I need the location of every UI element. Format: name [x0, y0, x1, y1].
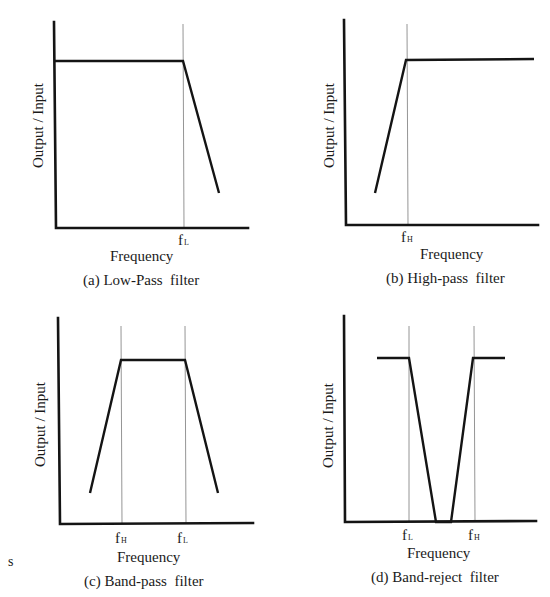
- panel-band-reject: Output / Input fL fH Frequency (d) Band-…: [320, 316, 536, 586]
- panel-caption: (a) Low-Pass filter: [83, 272, 199, 289]
- x-axis-label: Frequency: [117, 549, 181, 565]
- fl-guide-line: [185, 326, 186, 524]
- axes: [58, 318, 253, 524]
- marker-fh: fH: [401, 229, 413, 245]
- response-curve: [55, 61, 219, 193]
- panel-caption: (d) Band-reject filter: [371, 569, 499, 586]
- x-axis-label: Frequency: [420, 246, 484, 262]
- y-axis-label: Output / Input: [321, 82, 337, 168]
- panel-low-pass: Output / Input fL Frequency (a) Low-Pass…: [30, 22, 248, 289]
- response-curve: [375, 59, 534, 193]
- fh-guide-line: [407, 24, 408, 225]
- axes: [344, 316, 536, 522]
- response-curve: [90, 360, 218, 493]
- y-axis-label: Output / Input: [320, 382, 336, 468]
- marker-fl: fL: [177, 530, 188, 546]
- marker-fl: fL: [178, 232, 189, 248]
- x-axis-label: Frequency: [110, 248, 174, 264]
- marker-fl: fL: [402, 527, 413, 543]
- axes: [344, 20, 538, 225]
- fh-guide-line: [474, 326, 475, 522]
- fl-guide-line: [183, 24, 184, 228]
- y-axis-label: Output / Input: [30, 82, 46, 168]
- stray-text: s: [8, 554, 13, 569]
- y-axis-label: Output / Input: [32, 381, 48, 467]
- fh-guide-line: [121, 326, 122, 524]
- panel-caption: (c) Band-pass filter: [84, 573, 204, 590]
- marker-fh: fH: [468, 527, 480, 543]
- marker-fh: fH: [115, 530, 127, 546]
- x-axis-label: Frequency: [407, 545, 471, 561]
- panel-caption: (b) High-pass filter: [386, 270, 505, 287]
- axes: [54, 22, 248, 228]
- panel-band-pass: Output / Input fH fL Frequency (c) Band-…: [8, 318, 253, 590]
- filter-response-figure: Output / Input fL Frequency (a) Low-Pass…: [0, 0, 550, 597]
- panel-high-pass: Output / Input fH Frequency (b) High-pas…: [321, 20, 538, 287]
- response-curve: [377, 358, 505, 522]
